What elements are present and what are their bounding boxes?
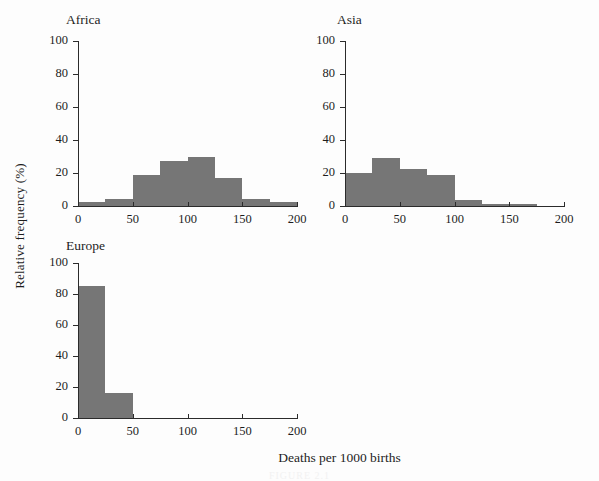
x-axis-tick-label: 0 [325, 212, 365, 227]
x-axis-tick [133, 414, 134, 419]
x-axis-tick-label: 100 [168, 424, 208, 439]
x-axis-tick [400, 202, 401, 207]
y-axis-tick-label: 100 [33, 255, 68, 270]
x-axis-tick [345, 202, 346, 207]
x-axis-tick [242, 414, 243, 419]
x-axis-tick [78, 414, 79, 419]
y-axis-line [345, 41, 346, 207]
histogram-bar [78, 286, 105, 418]
y-axis-tick-label: 80 [33, 286, 68, 301]
x-axis-tick [509, 202, 510, 207]
x-axis-tick [297, 414, 298, 419]
panel-europe: Europe 020406080100050100150200 [0, 0, 310, 478]
x-axis-tick [188, 414, 189, 419]
x-axis-tick-label: 50 [380, 212, 420, 227]
y-axis-tick [340, 140, 345, 141]
plot-area-asia: 020406080100050100150200 [345, 41, 564, 206]
x-axis-label: Deaths per 1000 births [0, 450, 599, 466]
histogram-bar [400, 169, 427, 206]
x-axis-tick-label: 200 [277, 424, 317, 439]
x-axis-tick-label: 200 [544, 212, 584, 227]
x-axis-tick-label: 150 [222, 424, 262, 439]
x-axis-label-text: Deaths per 1000 births [278, 450, 401, 465]
x-axis-tick-label: 100 [435, 212, 475, 227]
y-axis-tick [73, 263, 78, 264]
x-axis-tick-label: 0 [58, 424, 98, 439]
x-axis-tick-label: 50 [113, 424, 153, 439]
y-axis-tick-label: 40 [33, 348, 68, 363]
histogram-bar [427, 175, 454, 206]
y-axis-tick [73, 387, 78, 388]
histogram-bar [105, 393, 132, 418]
histogram-bar [372, 158, 399, 206]
y-axis-tick [73, 325, 78, 326]
y-axis-tick-label: 60 [33, 317, 68, 332]
y-axis-tick-label: 20 [33, 379, 68, 394]
panel-title-asia: Asia [337, 12, 362, 28]
x-axis-tick [455, 202, 456, 207]
histogram-bar [345, 173, 372, 206]
x-axis-tick-label: 150 [489, 212, 529, 227]
y-axis-tick [340, 41, 345, 42]
y-axis-tick [340, 173, 345, 174]
y-axis-tick [340, 107, 345, 108]
figure-caption: FIGURE 2.1 [0, 470, 599, 481]
y-axis-tick [340, 74, 345, 75]
y-axis-tick [73, 356, 78, 357]
plot-area-europe: 020406080100050100150200 [78, 263, 297, 418]
y-axis-line [78, 263, 79, 419]
y-axis-tick-label: 0 [33, 410, 68, 425]
panel-title-europe: Europe [66, 238, 105, 254]
x-axis-tick [564, 202, 565, 207]
y-axis-tick [73, 294, 78, 295]
